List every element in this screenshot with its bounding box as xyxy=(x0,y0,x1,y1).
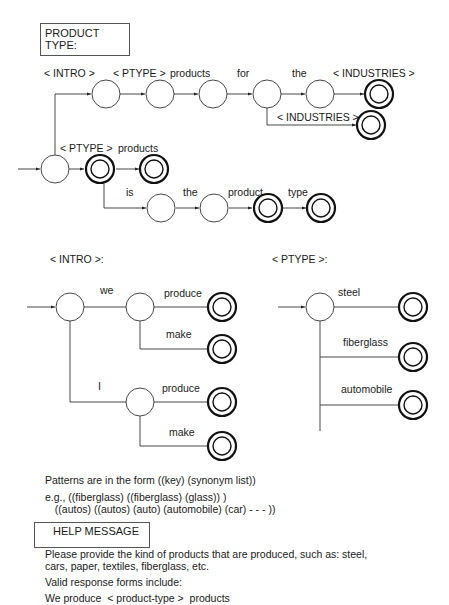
label-the-bottom: the xyxy=(183,186,198,198)
label-for: for xyxy=(237,67,250,79)
help-message-title: HELP MESSAGE xyxy=(53,525,139,537)
label-ptype-top: < PTYPE > xyxy=(113,67,166,79)
label-we-make: make xyxy=(166,328,192,340)
ptype-network-title: < PTYPE >: xyxy=(272,253,327,265)
label-is: is xyxy=(126,186,134,198)
label-industries-branch: < INDUSTRIES > xyxy=(277,111,359,123)
final-state-node xyxy=(357,111,385,139)
state-node xyxy=(306,80,334,108)
label-intro: < INTRO > xyxy=(44,67,95,79)
label-industries-top: < INDUSTRIES > xyxy=(333,67,415,79)
label-i-produce: produce xyxy=(162,382,200,394)
start-state-node xyxy=(41,155,69,183)
label-ptype-mid: < PTYPE > xyxy=(60,142,113,154)
label-products-mid: products xyxy=(118,142,158,154)
final-state-node xyxy=(86,155,114,183)
final-state-node xyxy=(208,335,236,363)
state-node xyxy=(147,194,175,222)
state-node xyxy=(126,293,154,321)
final-state-node xyxy=(399,343,427,371)
help-message-box: HELP MESSAGE xyxy=(34,522,150,548)
label-steel: steel xyxy=(338,286,360,298)
state-node xyxy=(146,80,174,108)
final-state-node xyxy=(365,80,393,108)
edge-is xyxy=(104,184,146,208)
final-state-node xyxy=(208,432,236,460)
state-node xyxy=(92,80,120,108)
label-we-produce: produce xyxy=(164,287,202,299)
intro-start-node xyxy=(56,293,84,321)
label-product: product xyxy=(228,186,263,198)
final-state-node xyxy=(140,155,168,183)
label-automobile: automobile xyxy=(341,383,393,395)
intro-network-title: < INTRO >: xyxy=(50,253,104,265)
label-products-top: products xyxy=(170,67,210,79)
label-fiberglass: fiberglass xyxy=(343,336,388,348)
help-line-3: Valid response forms include: xyxy=(45,576,182,589)
final-state-node xyxy=(307,194,335,222)
state-node xyxy=(253,80,281,108)
state-node xyxy=(199,80,227,108)
label-type: type xyxy=(288,186,308,198)
help-line-4: We produce < product-type > products xyxy=(45,592,230,605)
final-state-node xyxy=(208,388,236,416)
final-state-node xyxy=(399,391,427,419)
label-i-make: make xyxy=(169,426,195,438)
help-line-2: cars, paper, textiles, fiberglass, etc. xyxy=(45,560,209,573)
state-node xyxy=(200,194,228,222)
final-state-node xyxy=(254,194,282,222)
label-i: I xyxy=(98,380,101,392)
patterns-line-3: ((autos) ((autos) (auto) (automobile) (c… xyxy=(49,503,275,516)
final-state-node xyxy=(208,293,236,321)
patterns-line-1: Patterns are in the form ((key) (synonym… xyxy=(45,474,256,487)
label-we: we xyxy=(99,284,114,296)
ptype-start-node xyxy=(306,293,334,321)
label-the-top: the xyxy=(292,67,307,79)
state-node xyxy=(126,388,154,416)
final-state-node xyxy=(399,293,427,321)
